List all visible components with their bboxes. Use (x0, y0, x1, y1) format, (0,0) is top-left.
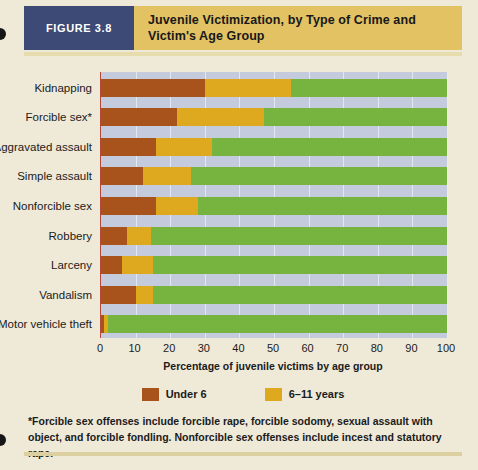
bar-segment[interactable] (136, 286, 153, 304)
legend-item[interactable]: 6–11 years (265, 388, 345, 401)
bar-segment[interactable] (122, 256, 153, 274)
x-axis-ticks: 0102030405060708090100 (100, 342, 446, 358)
bar-rows: KidnappingForcible sex*Aggravated assaul… (101, 72, 447, 338)
bar-row[interactable]: Larceny (101, 256, 447, 274)
bar-segment[interactable] (127, 227, 151, 245)
figure-title: Juvenile Victimization, by Type of Crime… (134, 6, 462, 50)
bar-segment[interactable] (101, 227, 127, 245)
bar-segment[interactable] (101, 286, 136, 304)
x-tick-label: 30 (198, 342, 210, 354)
bar-row[interactable]: Robbery (101, 227, 447, 245)
legend-swatch (142, 388, 159, 401)
bar-segment[interactable] (156, 197, 198, 215)
bar-row[interactable]: Kidnapping (101, 79, 447, 97)
x-tick-label: 0 (97, 342, 103, 354)
legend-label: 6–11 years (289, 388, 345, 400)
category-label: Vandalism (0, 286, 101, 304)
bar-segment[interactable] (198, 197, 447, 215)
bar-row[interactable]: Motor vehicle theft (101, 315, 447, 333)
chart-panel: KidnappingForcible sex*Aggravated assaul… (24, 58, 462, 406)
bar-row[interactable]: Vandalism (101, 286, 447, 304)
bar-segment[interactable] (205, 79, 292, 97)
bar-segment[interactable] (101, 79, 205, 97)
bar-segment[interactable] (191, 167, 447, 185)
page-gutter-mark-bottom (0, 434, 6, 446)
x-tick-label: 80 (371, 342, 383, 354)
x-tick-label: 20 (163, 342, 175, 354)
x-tick-label: 100 (437, 342, 455, 354)
bar-segment[interactable] (153, 256, 447, 274)
figure-number-tag: FIGURE 3.8 (24, 6, 134, 50)
x-axis-title: Percentage of juvenile victims by age gr… (100, 360, 446, 372)
plot-area: KidnappingForcible sex*Aggravated assaul… (100, 72, 447, 338)
bar-row[interactable]: Forcible sex* (101, 108, 447, 126)
bar-segment[interactable] (101, 197, 156, 215)
category-label: Simple assault (0, 167, 101, 185)
legend-swatch (265, 388, 282, 401)
category-label: Forcible sex* (0, 108, 101, 126)
category-label: Nonforcible sex (0, 197, 101, 215)
bar-segment[interactable] (153, 286, 447, 304)
bar-segment[interactable] (101, 256, 122, 274)
figure-page: FIGURE 3.8 Juvenile Victimization, by Ty… (0, 0, 478, 470)
x-tick-label: 40 (232, 342, 244, 354)
x-tick-label: 90 (405, 342, 417, 354)
bar-segment[interactable] (151, 227, 447, 245)
x-tick-label: 70 (336, 342, 348, 354)
x-tick-label: 50 (267, 342, 279, 354)
bar-segment[interactable] (101, 138, 156, 156)
category-label: Aggravated assault (0, 138, 101, 156)
bar-segment[interactable] (101, 167, 143, 185)
bar-row[interactable]: Simple assault (101, 167, 447, 185)
legend-label: Under 6 (166, 388, 207, 400)
bar-segment[interactable] (101, 108, 177, 126)
page-gutter-mark-top (0, 28, 6, 40)
category-label: Robbery (0, 227, 101, 245)
figure-header: FIGURE 3.8 Juvenile Victimization, by Ty… (24, 6, 462, 50)
bar-segment[interactable] (264, 108, 447, 126)
x-tick-label: 10 (128, 342, 140, 354)
bar-segment[interactable] (156, 138, 211, 156)
gridline (447, 72, 448, 338)
bar-segment[interactable] (143, 167, 191, 185)
category-label: Motor vehicle theft (0, 315, 101, 333)
bar-segment[interactable] (212, 138, 447, 156)
x-tick-label: 60 (301, 342, 313, 354)
bar-row[interactable]: Nonforcible sex (101, 197, 447, 215)
bar-segment[interactable] (108, 315, 447, 333)
category-label: Larceny (0, 256, 101, 274)
chart-legend: Under 66–11 years (24, 383, 462, 405)
bar-row[interactable]: Aggravated assault (101, 138, 447, 156)
category-label: Kidnapping (0, 79, 101, 97)
bar-segment[interactable] (177, 108, 264, 126)
legend-item[interactable]: Under 6 (142, 388, 207, 401)
header-divider (24, 52, 462, 56)
footer-divider (24, 452, 462, 456)
bar-segment[interactable] (291, 79, 447, 97)
